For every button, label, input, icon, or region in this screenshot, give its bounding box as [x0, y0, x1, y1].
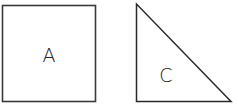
diagram-canvas: A C	[0, 0, 239, 108]
square-shape: A	[3, 6, 96, 102]
square-label: A	[43, 44, 56, 66]
triangle-shape: C	[137, 4, 232, 102]
triangle-label: C	[159, 64, 172, 86]
